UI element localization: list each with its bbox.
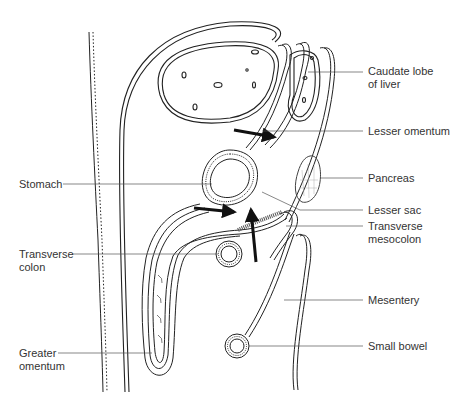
arrow-icon <box>251 210 256 262</box>
small-bowel <box>225 334 249 358</box>
arrow-icon <box>194 208 234 212</box>
label-caudate-lobe: Caudate lobe of liver <box>368 65 433 91</box>
liver <box>158 42 278 123</box>
label-lesser-sac: Lesser sac <box>368 204 421 217</box>
label-transverse-mesocolon: Transverse mesocolon <box>368 220 423 246</box>
label-lesser-omentum: Lesser omentum <box>368 125 450 138</box>
label-transverse-colon: Transverse colon <box>19 248 74 274</box>
transverse-colon <box>216 241 242 267</box>
label-mesentery: Mesentery <box>368 294 419 307</box>
label-stomach: Stomach <box>19 178 62 191</box>
parietal-peritoneum <box>119 22 280 392</box>
abdominal-wall <box>89 32 107 392</box>
stomach <box>202 150 257 205</box>
leader-lines <box>58 72 363 353</box>
greater-omentum <box>142 204 287 375</box>
caudate-lobe <box>288 51 319 121</box>
label-small-bowel: Small bowel <box>368 340 427 353</box>
label-pancreas: Pancreas <box>368 172 414 185</box>
label-greater-omentum: Greater omentum <box>19 347 65 373</box>
